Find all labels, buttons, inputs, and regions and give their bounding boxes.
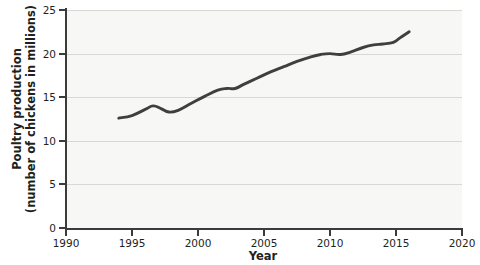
chart-figure: 0510152025 1990199520002005201020152020 … [0, 0, 480, 265]
x-axis-title: Year [233, 249, 293, 263]
y-axis-title: Poultry production (number of chickens i… [10, 0, 38, 227]
data-series-layer [0, 0, 480, 265]
line-series-poultry-production [119, 32, 409, 118]
